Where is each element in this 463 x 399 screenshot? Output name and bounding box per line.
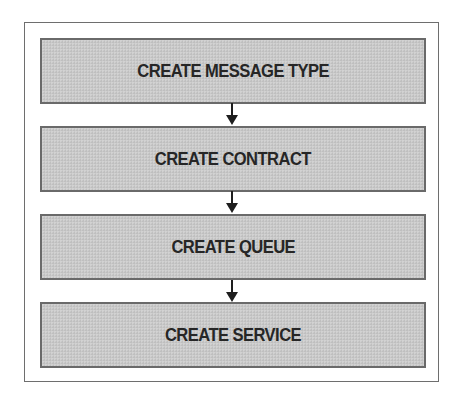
step-label: CREATE SERVICE xyxy=(165,325,301,346)
step-label: CREATE QUEUE xyxy=(171,237,295,258)
arrow-down-icon xyxy=(224,103,240,126)
step-create-queue: CREATE QUEUE xyxy=(40,214,426,280)
step-create-service: CREATE SERVICE xyxy=(40,302,426,368)
arrow-down-icon xyxy=(224,280,240,303)
step-create-contract: CREATE CONTRACT xyxy=(40,126,426,192)
arrow-down-icon xyxy=(224,191,240,214)
step-create-message-type: CREATE MESSAGE TYPE xyxy=(40,38,426,104)
step-label: CREATE MESSAGE TYPE xyxy=(137,61,329,82)
step-label: CREATE CONTRACT xyxy=(155,149,311,170)
